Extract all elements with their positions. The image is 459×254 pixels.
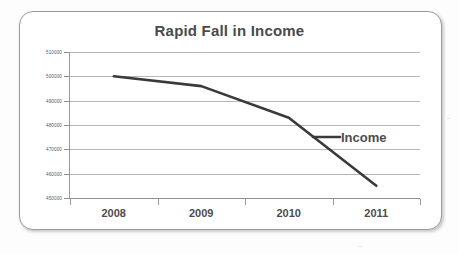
y-axis-tick-label: 470000 bbox=[18, 147, 62, 152]
y-axis-tick-label: 490000 bbox=[18, 98, 62, 103]
scan-speckle bbox=[447, 118, 450, 119]
y-axis-tick bbox=[64, 101, 70, 102]
scan-speckle bbox=[358, 246, 363, 247]
x-axis-tick-label: 2008 bbox=[70, 207, 158, 219]
y-axis-tick-label: 500000 bbox=[18, 74, 62, 79]
y-axis-tick bbox=[64, 125, 70, 126]
y-axis-tick bbox=[64, 174, 70, 175]
y-axis-tick bbox=[64, 149, 70, 150]
series-label-income: Income bbox=[341, 130, 387, 145]
y-axis-tick-label: 450000 bbox=[18, 196, 62, 201]
x-axis-tick bbox=[70, 199, 71, 205]
x-axis-tick bbox=[333, 199, 334, 205]
y-axis-tick bbox=[64, 52, 70, 53]
x-axis-tick bbox=[158, 199, 159, 205]
x-axis-tick-label: 2011 bbox=[333, 207, 421, 219]
y-axis-labels: 5100005000004900004800004700004600004500… bbox=[16, 52, 62, 198]
gridline bbox=[70, 125, 420, 126]
x-axis-tick-label: 2009 bbox=[158, 207, 246, 219]
y-axis-tick bbox=[64, 76, 70, 77]
y-axis-tick-label: 510000 bbox=[18, 50, 62, 55]
x-axis-tick-label: 2010 bbox=[245, 207, 333, 219]
x-axis-tick bbox=[245, 199, 246, 205]
x-axis-tick bbox=[420, 199, 421, 205]
y-axis-tick-label: 460000 bbox=[18, 171, 62, 176]
plot-area bbox=[70, 52, 420, 198]
y-axis-tick bbox=[64, 198, 70, 199]
gridline bbox=[70, 76, 420, 77]
chart-page: Rapid Fall in Income 5100005000004900004… bbox=[0, 0, 459, 254]
gridline bbox=[70, 101, 420, 102]
gridline bbox=[70, 149, 420, 150]
chart-title: Rapid Fall in Income bbox=[19, 22, 440, 39]
gridline bbox=[70, 174, 420, 175]
y-axis-tick-label: 480000 bbox=[18, 123, 62, 128]
gridline bbox=[70, 52, 420, 53]
